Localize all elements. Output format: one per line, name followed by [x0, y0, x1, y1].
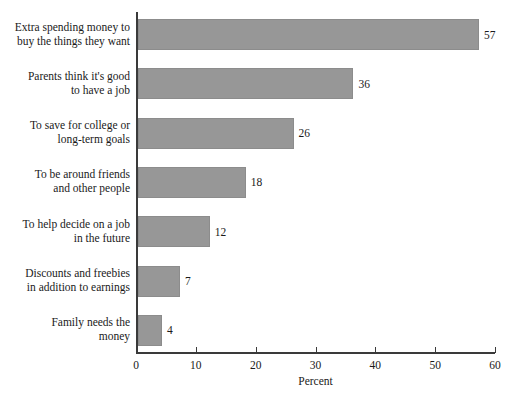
- category-label: Parents think it's good to have a job: [6, 69, 130, 97]
- bar-value-label: 18: [251, 176, 263, 188]
- bar: [138, 19, 479, 50]
- x-tick-mark: [196, 347, 197, 353]
- x-tick-label: 0: [116, 358, 156, 372]
- bar-value-label: 12: [215, 226, 227, 238]
- category-label: To help decide on a job in the future: [6, 217, 130, 245]
- x-tick-mark: [256, 347, 257, 353]
- bar-value-label: 7: [185, 275, 191, 287]
- bar: [138, 68, 353, 99]
- bar: [138, 315, 162, 346]
- x-tick-label: 40: [355, 358, 395, 372]
- category-label: Discounts and freebies in addition to ea…: [6, 266, 130, 294]
- x-tick-label: 20: [236, 358, 276, 372]
- x-tick-label: 30: [296, 358, 336, 372]
- plot-area: Extra spending money to buy the things t…: [0, 0, 514, 399]
- x-tick-mark: [316, 347, 317, 353]
- x-tick-mark: [136, 347, 137, 353]
- x-tick-mark: [495, 347, 496, 353]
- x-tick-label: 50: [415, 358, 455, 372]
- bar-value-label: 26: [299, 127, 311, 139]
- x-tick-label: 10: [176, 358, 216, 372]
- x-tick-mark: [435, 347, 436, 353]
- bar-value-label: 4: [167, 324, 173, 336]
- bar: [138, 167, 246, 198]
- bar-value-label: 57: [484, 29, 496, 41]
- bar: [138, 266, 180, 297]
- category-label: To be around friends and other people: [6, 167, 130, 195]
- category-label: To save for college or long-term goals: [6, 118, 130, 146]
- x-axis-title: Percent: [256, 374, 376, 388]
- bar: [138, 216, 210, 247]
- category-label: Extra spending money to buy the things t…: [6, 20, 130, 48]
- x-tick-mark: [375, 347, 376, 353]
- bar-chart: Extra spending money to buy the things t…: [0, 0, 514, 399]
- x-tick-label: 60: [475, 358, 514, 372]
- bar: [138, 118, 294, 149]
- category-label: Family needs the money: [6, 315, 130, 343]
- bar-value-label: 36: [358, 78, 370, 90]
